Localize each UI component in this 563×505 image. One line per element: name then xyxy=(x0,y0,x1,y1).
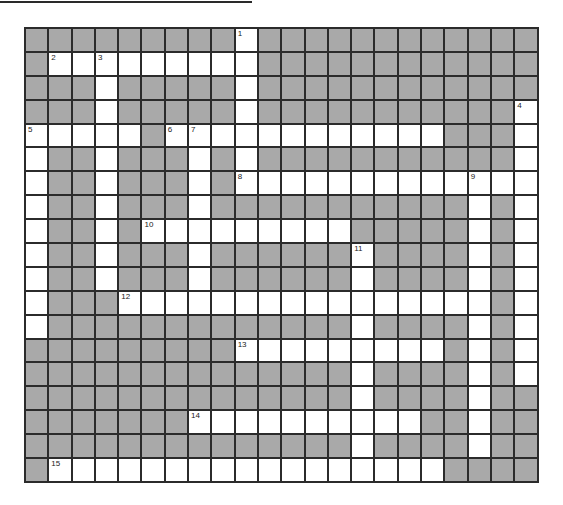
answer-cell[interactable] xyxy=(188,171,211,195)
answer-cell[interactable] xyxy=(305,458,328,482)
answer-cell[interactable] xyxy=(421,339,444,363)
answer-cell[interactable] xyxy=(95,267,118,291)
answer-cell[interactable] xyxy=(398,171,421,195)
answer-cell[interactable] xyxy=(421,291,444,315)
answer-cell[interactable]: 3 xyxy=(95,52,118,76)
answer-cell[interactable]: 9 xyxy=(468,171,491,195)
answer-cell[interactable] xyxy=(514,219,537,243)
answer-cell[interactable] xyxy=(468,362,491,386)
answer-cell[interactable] xyxy=(95,195,118,219)
answer-cell[interactable] xyxy=(514,171,537,195)
answer-cell[interactable]: 1 xyxy=(235,28,258,52)
answer-cell[interactable] xyxy=(328,219,351,243)
answer-cell[interactable] xyxy=(491,171,514,195)
answer-cell[interactable] xyxy=(235,100,258,124)
answer-cell[interactable] xyxy=(305,291,328,315)
answer-cell[interactable] xyxy=(374,171,397,195)
answer-cell[interactable] xyxy=(165,52,188,76)
answer-cell[interactable] xyxy=(328,171,351,195)
answer-cell[interactable] xyxy=(328,458,351,482)
answer-cell[interactable] xyxy=(351,339,374,363)
answer-cell[interactable] xyxy=(188,147,211,171)
answer-cell[interactable] xyxy=(188,458,211,482)
answer-cell[interactable] xyxy=(398,291,421,315)
answer-cell[interactable] xyxy=(328,291,351,315)
answer-cell[interactable] xyxy=(328,124,351,148)
answer-cell[interactable] xyxy=(258,410,281,434)
answer-cell[interactable] xyxy=(188,291,211,315)
answer-cell[interactable] xyxy=(95,458,118,482)
answer-cell[interactable] xyxy=(351,291,374,315)
answer-cell[interactable]: 2 xyxy=(48,52,71,76)
answer-cell[interactable] xyxy=(211,52,234,76)
answer-cell[interactable] xyxy=(281,458,304,482)
answer-cell[interactable] xyxy=(514,243,537,267)
answer-cell[interactable] xyxy=(398,339,421,363)
answer-cell[interactable]: 15 xyxy=(48,458,71,482)
answer-cell[interactable] xyxy=(328,339,351,363)
answer-cell[interactable] xyxy=(211,458,234,482)
answer-cell[interactable] xyxy=(165,458,188,482)
answer-cell[interactable] xyxy=(235,52,258,76)
answer-cell[interactable] xyxy=(351,458,374,482)
answer-cell[interactable] xyxy=(398,410,421,434)
answer-cell[interactable] xyxy=(281,171,304,195)
answer-cell[interactable] xyxy=(351,315,374,339)
answer-cell[interactable] xyxy=(351,410,374,434)
answer-cell[interactable] xyxy=(235,219,258,243)
answer-cell[interactable] xyxy=(514,124,537,148)
answer-cell[interactable] xyxy=(95,147,118,171)
answer-cell[interactable]: 7 xyxy=(188,124,211,148)
answer-cell[interactable] xyxy=(374,410,397,434)
answer-cell[interactable] xyxy=(468,410,491,434)
answer-cell[interactable] xyxy=(468,219,491,243)
answer-cell[interactable] xyxy=(141,52,164,76)
answer-cell[interactable] xyxy=(95,100,118,124)
answer-cell[interactable] xyxy=(235,147,258,171)
answer-cell[interactable]: 10 xyxy=(141,219,164,243)
answer-cell[interactable] xyxy=(25,219,48,243)
answer-cell[interactable] xyxy=(235,291,258,315)
answer-cell[interactable] xyxy=(351,171,374,195)
answer-cell[interactable] xyxy=(188,52,211,76)
answer-cell[interactable]: 5 xyxy=(25,124,48,148)
answer-cell[interactable] xyxy=(398,458,421,482)
answer-cell[interactable] xyxy=(211,219,234,243)
answer-cell[interactable] xyxy=(165,219,188,243)
answer-cell[interactable] xyxy=(118,52,141,76)
answer-cell[interactable] xyxy=(281,219,304,243)
answer-cell[interactable]: 14 xyxy=(188,410,211,434)
answer-cell[interactable] xyxy=(141,291,164,315)
answer-cell[interactable] xyxy=(95,124,118,148)
answer-cell[interactable] xyxy=(468,339,491,363)
answer-cell[interactable] xyxy=(25,315,48,339)
answer-cell[interactable] xyxy=(281,124,304,148)
answer-cell[interactable] xyxy=(235,458,258,482)
answer-cell[interactable]: 12 xyxy=(118,291,141,315)
answer-cell[interactable] xyxy=(421,124,444,148)
answer-cell[interactable]: 11 xyxy=(351,243,374,267)
answer-cell[interactable] xyxy=(25,195,48,219)
answer-cell[interactable] xyxy=(305,339,328,363)
answer-cell[interactable] xyxy=(72,458,95,482)
answer-cell[interactable] xyxy=(305,171,328,195)
answer-cell[interactable] xyxy=(281,339,304,363)
answer-cell[interactable] xyxy=(211,410,234,434)
answer-cell[interactable] xyxy=(25,291,48,315)
answer-cell[interactable] xyxy=(514,195,537,219)
answer-cell[interactable] xyxy=(374,124,397,148)
answer-cell[interactable] xyxy=(95,243,118,267)
answer-cell[interactable] xyxy=(211,124,234,148)
answer-cell[interactable] xyxy=(305,124,328,148)
answer-cell[interactable] xyxy=(165,291,188,315)
answer-cell[interactable] xyxy=(141,458,164,482)
answer-cell[interactable] xyxy=(72,124,95,148)
answer-cell[interactable] xyxy=(258,458,281,482)
answer-cell[interactable] xyxy=(95,171,118,195)
answer-cell[interactable] xyxy=(25,171,48,195)
answer-cell[interactable] xyxy=(188,243,211,267)
answer-cell[interactable] xyxy=(514,147,537,171)
answer-cell[interactable] xyxy=(235,410,258,434)
answer-cell[interactable]: 13 xyxy=(235,339,258,363)
answer-cell[interactable] xyxy=(514,267,537,291)
